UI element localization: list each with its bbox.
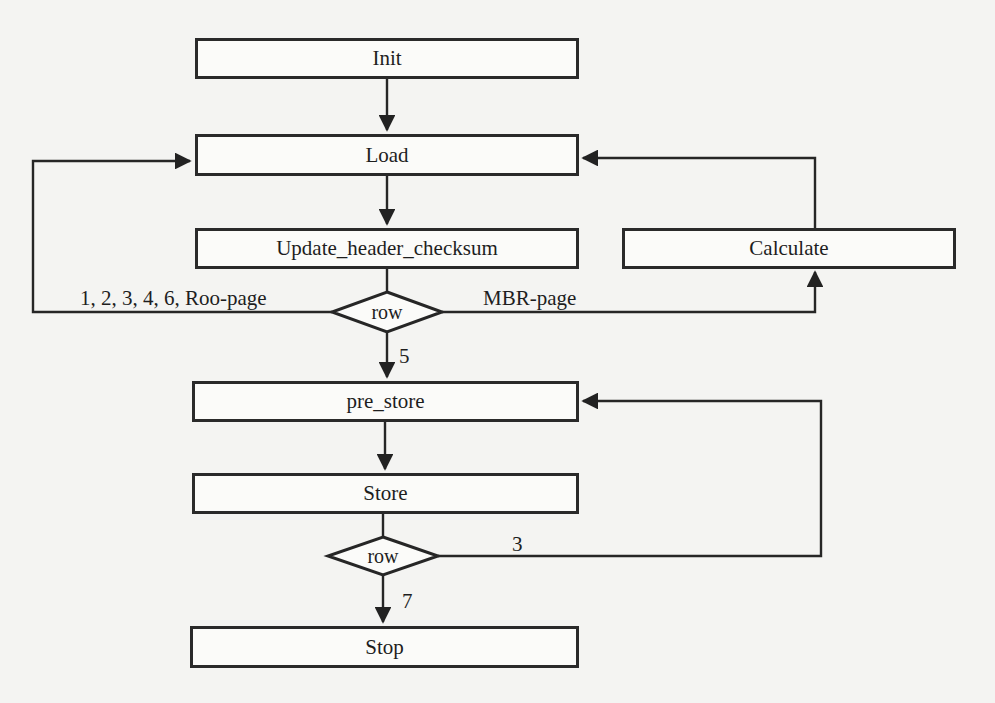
node-init: Init: [195, 38, 579, 79]
node-stop-label: Stop: [365, 635, 404, 660]
node-stop: Stop: [190, 626, 579, 668]
flowchart-connectors: [0, 0, 995, 703]
node-calculate: Calculate: [622, 228, 956, 269]
node-update-header-checksum: Update_header_checksum: [195, 228, 579, 269]
node-pre-store-label: pre_store: [346, 389, 424, 414]
node-calculate-label: Calculate: [749, 236, 828, 261]
node-store-label: Store: [363, 481, 407, 506]
edge-label-roo-page: 1, 2, 3, 4, 6, Roo-page: [80, 288, 267, 309]
flowchart-diagram: Init Load Update_header_checksum Calcula…: [0, 0, 995, 703]
edge-label-5: 5: [399, 346, 410, 367]
edge-label-7: 7: [402, 591, 413, 612]
node-pre-store: pre_store: [192, 381, 579, 422]
node-update-label: Update_header_checksum: [276, 236, 498, 261]
edge-label-mbr-page: MBR-page: [483, 288, 576, 309]
node-load-label: Load: [365, 143, 408, 168]
arrow-calculate-to-load: [583, 158, 815, 228]
decision-1-label: row: [371, 302, 402, 322]
node-load: Load: [195, 134, 579, 176]
node-init-label: Init: [372, 46, 401, 71]
edge-label-3: 3: [512, 534, 523, 555]
decision-2-label: row: [367, 546, 398, 566]
node-store: Store: [192, 473, 579, 514]
